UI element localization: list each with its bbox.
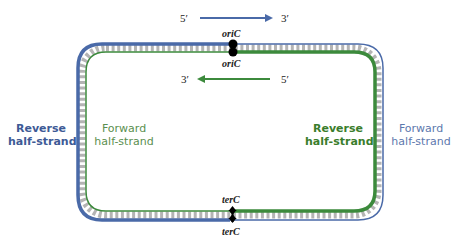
right-outer-label-line1: Forward	[389, 122, 453, 135]
left-inner-label: Forward half-strand	[94, 122, 154, 148]
right-inner-label-line2: half-strand	[305, 135, 371, 148]
terc-bottom-label: terC	[222, 226, 240, 237]
top-arrow-start-label: 5′	[180, 12, 188, 24]
left-outer-label-line1: Reverse	[8, 122, 74, 135]
right-outer-label: Forward half-strand	[389, 122, 453, 148]
oric-top-label: oriC	[222, 28, 240, 39]
left-outer-label: Reverse half-strand	[8, 122, 74, 148]
top-arrow-end-label: 3′	[281, 12, 289, 24]
oric-top-dot	[229, 40, 238, 49]
left-inner-label-line1: Forward	[94, 122, 154, 135]
left-inner-label-line2: half-strand	[94, 135, 154, 148]
bottom-arrow-end-label: 3′	[181, 73, 189, 85]
terc-top-label: terC	[222, 194, 240, 205]
right-inner-label-line1: Reverse	[305, 122, 371, 135]
right-outer-label-line2: half-strand	[389, 135, 453, 148]
oric-bottom-label: oriC	[222, 58, 240, 69]
oric-bottom-dot	[229, 48, 238, 57]
left-outer-label-line2: half-strand	[8, 135, 74, 148]
bottom-arrow-start-label: 5′	[281, 73, 289, 85]
right-inner-label: Reverse half-strand	[305, 122, 371, 148]
